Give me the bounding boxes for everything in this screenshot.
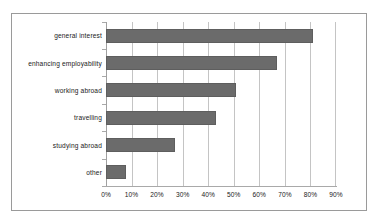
y-axis-tick <box>102 131 106 132</box>
category-label-general-interest: general interest <box>54 32 102 39</box>
bar-row <box>106 22 336 49</box>
bar-travelling[interactable] <box>106 111 216 125</box>
bar-studying-abroad[interactable] <box>106 138 175 152</box>
plot-area <box>106 22 336 186</box>
bar-row <box>106 131 336 158</box>
y-axis-tick <box>102 49 106 50</box>
category-label-working-abroad: working abroad <box>55 87 102 94</box>
y-axis-tick <box>102 186 106 187</box>
category-label-other: other <box>86 169 102 176</box>
bar-general-interest[interactable] <box>106 29 313 43</box>
bar-other[interactable] <box>106 165 126 179</box>
xtick-label-90: 90% <box>321 191 351 198</box>
bar-working-abroad[interactable] <box>106 83 236 97</box>
category-label-enhancing-employability: enhancing employability <box>28 60 102 67</box>
bar-row <box>106 159 336 186</box>
bar-enhancing-employability[interactable] <box>106 56 277 70</box>
category-label-travelling: travelling <box>74 114 102 121</box>
bar-row <box>106 104 336 131</box>
y-axis-tick <box>102 22 106 23</box>
chart-figure: general interest enhancing employability… <box>0 0 380 219</box>
category-label-studying-abroad: studying abroad <box>53 142 102 149</box>
bar-row <box>106 77 336 104</box>
x-axis-line <box>106 186 337 187</box>
y-axis-tick <box>102 104 106 105</box>
y-axis-tick <box>102 76 106 77</box>
bar-row <box>106 49 336 76</box>
y-axis-tick <box>102 159 106 160</box>
